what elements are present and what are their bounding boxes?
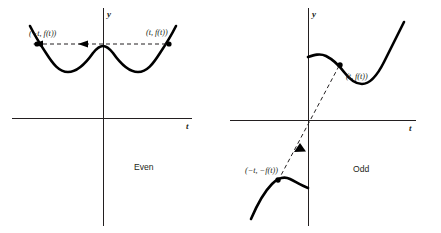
even-t-axis-label: t [186,121,189,131]
odd-point-lower-dot [275,177,280,182]
odd-symmetry-connector [279,66,339,179]
odd-point-upper-dot [337,62,342,67]
even-point-left-label: (−t, f(t)) [29,29,57,38]
even-caption: Even [134,162,154,172]
odd-caption: Odd [353,164,369,174]
odd-point-lower-label: (−t, −f(t)) [245,166,278,175]
odd-t-axis-label: t [409,123,412,133]
even-y-axis-label: y [106,9,112,19]
odd-point-upper-label: (t, f(t)) [346,72,368,81]
even-function-diagram: t y (−t, f(t)) (t, f(t)) Even [0,0,220,233]
even-connector-arrow-mid [78,40,88,47]
even-point-left-dot [34,41,39,46]
even-point-right-label: (t, f(t)) [146,28,168,37]
odd-function-curve-lower [251,178,308,219]
figure-container: t y (−t, f(t)) (t, f(t)) Even t y [0,0,441,233]
odd-function-diagram: t y (t, f(t)) (−t, −f(t)) Odd [220,0,441,233]
even-point-right-dot [166,41,171,46]
odd-y-axis-label: y [311,9,317,19]
